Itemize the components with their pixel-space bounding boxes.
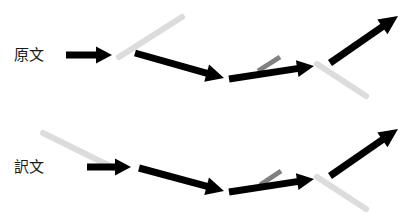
- diagram-rows-layer: [43, 16, 398, 209]
- arrow-head-icon: [115, 159, 131, 176]
- translated-text-row-guide-line-3: [317, 177, 366, 209]
- arrow-head-icon: [204, 178, 224, 195]
- source-text-row: [66, 16, 398, 96]
- arrow-shaft: [330, 26, 384, 63]
- diagram-labels-layer: 原文訳文: [14, 46, 44, 176]
- arrow-head-icon: [296, 173, 314, 190]
- arrow-flow-diagram: 原文訳文: [0, 0, 416, 215]
- arrow-head-icon: [296, 60, 314, 77]
- translated-text-row-arrow-4: [330, 129, 398, 176]
- translated-text-row: [43, 129, 398, 209]
- arrow-shaft: [330, 139, 384, 176]
- source-text-row-arrow-1: [66, 47, 112, 64]
- arrow-head-icon: [96, 47, 112, 64]
- guide-line: [317, 64, 366, 96]
- guide-line: [119, 17, 182, 57]
- source-text-row-guide-line-1: [119, 17, 182, 57]
- source-text-row-arrow-2: [135, 53, 224, 82]
- translated-text-row-label: 訳文: [14, 158, 44, 176]
- source-text-row-arrow-4: [330, 16, 398, 63]
- diagram-canvas: 原文訳文: [0, 0, 416, 215]
- source-text-row-label: 原文: [14, 46, 44, 64]
- guide-line: [317, 177, 366, 209]
- arrow-head-icon: [204, 64, 224, 81]
- arrow-shaft: [139, 168, 208, 187]
- arrow-shaft: [135, 53, 208, 74]
- translated-text-row-arrow-2: [139, 168, 224, 195]
- source-text-row-guide-line-3: [317, 64, 366, 96]
